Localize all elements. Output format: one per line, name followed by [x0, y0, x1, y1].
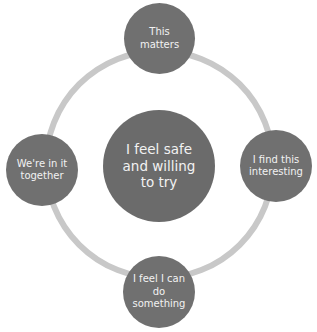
- center-node: I feel safe and willing to try: [103, 110, 215, 222]
- node-bottom-label: I feel I can do something: [129, 273, 189, 311]
- node-left-label: We're in it together: [12, 158, 72, 183]
- node-right: I find this interesting: [240, 130, 312, 202]
- node-right-label: I find this interesting: [245, 154, 307, 179]
- node-bottom: I feel I can do something: [123, 256, 195, 328]
- center-node-label: I feel safe and willing to try: [117, 141, 201, 192]
- node-left: We're in it together: [6, 134, 78, 206]
- node-top-label: This matters: [136, 26, 184, 51]
- node-top: This matters: [124, 3, 195, 74]
